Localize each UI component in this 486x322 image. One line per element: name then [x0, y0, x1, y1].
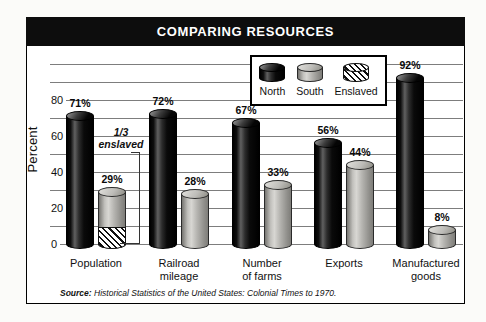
legend-label-south: South [296, 85, 323, 97]
bar-value-label-population-north: 71% [50, 97, 110, 109]
category-label-line: of farms [216, 270, 308, 283]
category-label-railroad-mileage: Railroadmileage [133, 257, 225, 282]
bar-value-label-railroad-mileage-north: 72% [133, 95, 193, 107]
y-tick-label-20: 20 [50, 202, 66, 214]
chart-page: COMPARING RESOURCES Percent 02040608071%… [0, 0, 486, 322]
bar-value-label-exports-north: 56% [298, 124, 358, 136]
enslaved-annotation-line1: 1/3 [81, 126, 161, 138]
cylinder-body [396, 78, 424, 249]
category-label-manufactured-goods: Manufacturedgoods [380, 257, 472, 282]
category-label-line: goods [380, 270, 472, 283]
legend-label-enslaved: Enslaved [334, 85, 377, 97]
cylinder-cap [428, 225, 456, 235]
source-note: Source: Historical Statistics of the Uni… [60, 288, 336, 298]
bar-value-label-number-of-farms-north: 67% [216, 104, 276, 116]
bar-number-of-farms-south [264, 180, 292, 249]
category-label-exports: Exports [298, 257, 390, 270]
enslaved-hatched-segment [98, 227, 126, 249]
bar-value-label-exports-south: 44% [330, 146, 390, 158]
callout-line-bottom [120, 243, 140, 244]
cylinder-cap [264, 180, 292, 190]
cylinder-cap [346, 160, 374, 170]
cylinder-body [232, 123, 260, 249]
source-text: Historical Statistics of the United Stat… [94, 288, 336, 298]
legend-item-north: North [259, 63, 285, 97]
bar-population-south [98, 187, 126, 249]
legend: North South Enslaved [250, 55, 387, 106]
cylinder-body [181, 194, 209, 249]
bar-railroad-mileage-south [181, 189, 209, 249]
enslaved-cylinder-icon [343, 63, 369, 82]
enslaved-annotation-line2: enslaved [81, 138, 161, 150]
bar-value-label-number-of-farms-south: 33% [248, 166, 308, 178]
chart-title: COMPARING RESOURCES [26, 17, 465, 46]
bar-manufactured-goods-south [428, 225, 456, 249]
cylinder-body [264, 185, 292, 249]
cylinder-body [346, 165, 374, 249]
category-label-number-of-farms: Numberof farms [216, 257, 308, 282]
legend-item-enslaved: Enslaved [334, 63, 377, 97]
north-cylinder-icon [259, 63, 285, 82]
cylinder-cap [98, 187, 126, 197]
enslaved-annotation: 1/3 enslaved [81, 126, 161, 150]
legend-label-north: North [260, 85, 286, 97]
category-label-line: mileage [133, 270, 225, 283]
bar-value-label-railroad-mileage-south: 28% [165, 175, 225, 187]
bar-value-label-manufactured-goods-south: 8% [412, 211, 472, 223]
bar-number-of-farms-north [232, 118, 260, 249]
category-label-line: Manufactured [380, 257, 472, 270]
category-label-line: Population [50, 257, 142, 270]
bar-exports-south [346, 160, 374, 249]
source-prefix: Source: [60, 288, 92, 298]
cylinder-cap [181, 189, 209, 199]
y-tick-label-0: 0 [50, 238, 60, 250]
callout-line-vertical [139, 152, 140, 244]
bar-value-label-population-south: 29% [82, 173, 142, 185]
south-cylinder-icon [297, 63, 323, 82]
bar-value-label-manufactured-goods-north: 92% [380, 59, 440, 71]
bar-manufactured-goods-north [396, 73, 424, 249]
y-tick-label-60: 60 [50, 130, 66, 142]
category-label-line: Exports [298, 257, 390, 270]
y-axis-title: Percent [25, 108, 40, 192]
category-label-line: Number [216, 257, 308, 270]
cylinder-body [314, 143, 342, 249]
category-label-line: Railroad [133, 257, 225, 270]
legend-item-south: South [296, 63, 323, 97]
y-tick-label-40: 40 [50, 166, 66, 178]
category-label-population: Population [50, 257, 142, 270]
chart-title-bar: COMPARING RESOURCES [26, 17, 465, 46]
